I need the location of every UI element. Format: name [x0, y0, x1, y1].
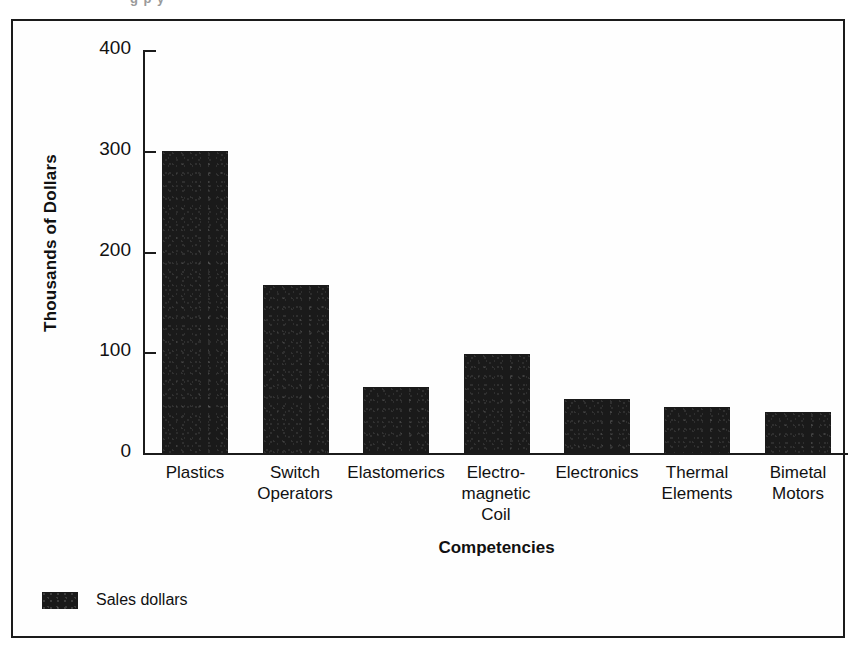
- x-axis-tick-label: ThermalElements: [641, 462, 753, 504]
- chart-legend: Sales dollars: [42, 591, 188, 609]
- x-axis-title: Competencies: [145, 538, 848, 558]
- bar-slot: [464, 21, 530, 455]
- legend-swatch-sales-dollars: [42, 592, 78, 609]
- bar[interactable]: [363, 387, 429, 453]
- y-axis-tick-label: 400: [57, 37, 131, 59]
- x-axis-tick-label-line: Operators: [239, 483, 351, 504]
- scan-artifact-text: g p y: [130, 0, 165, 6]
- x-axis-tick-label: Electro-magneticCoil: [440, 462, 552, 525]
- bar-slot: [363, 21, 429, 455]
- x-axis-tick-label: SwitchOperators: [239, 462, 351, 504]
- x-axis-tick-label-line: Electro-: [440, 462, 552, 483]
- y-axis-tick-label: 300: [57, 138, 131, 160]
- bar[interactable]: [263, 285, 329, 453]
- x-axis-tick-label: Electronics: [541, 462, 653, 483]
- bars-layer: [145, 21, 848, 455]
- bar[interactable]: [162, 151, 228, 453]
- x-axis-tick-label-line: Electronics: [541, 462, 653, 483]
- x-axis-tick-label: Plastics: [139, 462, 251, 483]
- bar[interactable]: [664, 407, 730, 453]
- scan-artifact-top: g p y: [0, 0, 867, 9]
- y-axis-tick-label: 100: [57, 339, 131, 361]
- legend-label-sales-dollars: Sales dollars: [96, 591, 188, 609]
- x-axis-tick-label-line: magnetic: [440, 483, 552, 504]
- x-axis-tick-label-line: Plastics: [139, 462, 251, 483]
- bar-slot: [263, 21, 329, 455]
- bar-slot: [162, 21, 228, 455]
- y-axis-tick-label: 200: [57, 239, 131, 261]
- x-axis-tick-label: Elastomerics: [340, 462, 452, 483]
- y-axis-tick-label: 0: [57, 440, 131, 462]
- bar[interactable]: [564, 399, 630, 453]
- x-axis-tick-label-line: Motors: [742, 483, 854, 504]
- bar-slot: [765, 21, 831, 455]
- bar[interactable]: [464, 354, 530, 453]
- x-axis-tick-label-line: Bimetal: [742, 462, 854, 483]
- chart-plot-area: Thousands of Dollars 0100200300400 Plast…: [13, 21, 847, 640]
- x-axis-tick-label-line: Switch: [239, 462, 351, 483]
- x-axis-tick-label-line: Coil: [440, 504, 552, 525]
- bar[interactable]: [765, 412, 831, 453]
- x-axis-tick-label: BimetalMotors: [742, 462, 854, 504]
- chart-frame: Thousands of Dollars 0100200300400 Plast…: [11, 19, 845, 638]
- bar-slot: [664, 21, 730, 455]
- bar-slot: [564, 21, 630, 455]
- x-axis-tick-label-line: Thermal: [641, 462, 753, 483]
- x-axis-tick-label-line: Elements: [641, 483, 753, 504]
- x-axis-tick-label-line: Elastomerics: [340, 462, 452, 483]
